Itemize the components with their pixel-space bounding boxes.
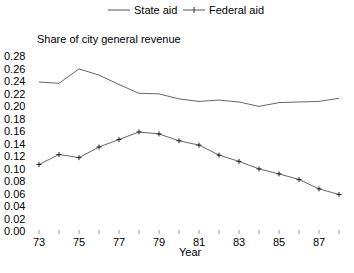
series-line (39, 132, 339, 195)
series-line (39, 69, 339, 107)
plot-area (0, 0, 354, 273)
